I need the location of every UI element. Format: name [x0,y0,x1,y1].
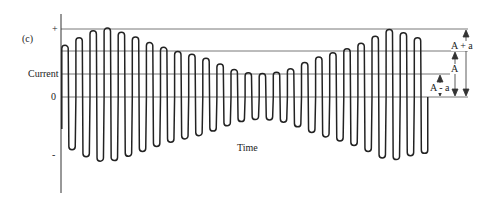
label-a-minus-a: A - a [430,83,449,93]
x-axis-label: Time [237,143,258,153]
label-a-plus-a: A + a [451,41,473,51]
tick-plus: + [52,24,58,34]
tick-minus: - [52,150,55,160]
y-axis-label: Current [28,69,59,79]
label-a: A [451,64,458,74]
waveform-plot [0,0,496,204]
panel-label: (c) [22,34,33,44]
tick-zero: 0 [51,92,56,102]
